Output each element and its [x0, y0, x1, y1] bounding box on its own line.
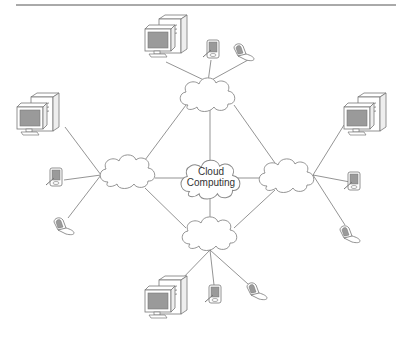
bottom-cluster-links [178, 250, 248, 285]
pda-icon [203, 40, 219, 58]
flip-phone-icon [234, 44, 254, 61]
center-label-line1: Cloud [180, 166, 242, 177]
desktop-computer-icon [145, 15, 187, 57]
right-cluster [340, 93, 386, 243]
cloud-right [259, 159, 314, 193]
left-cluster-links [64, 127, 101, 218]
center-label-line2: Computing [180, 177, 242, 188]
cloud-left [100, 155, 155, 189]
flip-phone-icon [54, 218, 74, 235]
flip-phone-icon [247, 283, 267, 300]
bottom-cluster [145, 276, 267, 318]
top-cluster [145, 15, 254, 61]
left-cluster [17, 93, 74, 235]
cloud-top [180, 78, 235, 112]
center-cloud-label: Cloud Computing [180, 166, 242, 188]
desktop-computer-icon [344, 93, 386, 135]
flip-phone-icon [340, 226, 360, 243]
cloud-bottom [182, 217, 237, 251]
pda-icon [46, 168, 62, 186]
desktop-computer-icon [17, 93, 59, 135]
pda-icon [205, 285, 221, 303]
desktop-computer-icon [145, 276, 187, 318]
right-cluster-links [313, 125, 350, 225]
